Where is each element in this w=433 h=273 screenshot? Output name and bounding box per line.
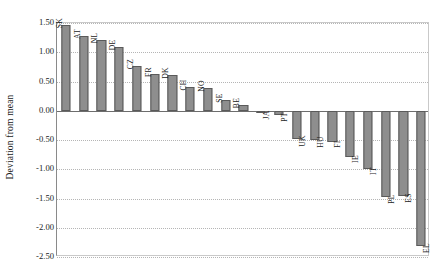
bar[interactable] <box>399 111 408 196</box>
bar-group: IE <box>341 23 359 257</box>
bar-group: SE <box>217 23 235 257</box>
bar-group: FI <box>323 23 341 257</box>
bar-category-label: NO <box>196 80 208 92</box>
bar-group: FR <box>146 23 164 257</box>
bar[interactable] <box>363 111 372 170</box>
bar-group: BE <box>235 23 253 257</box>
bar[interactable] <box>381 111 390 197</box>
bar-category-label: EL <box>421 243 433 253</box>
bar-group: UK <box>288 23 306 257</box>
bar-category-label: DK <box>160 67 172 79</box>
bar-category-label: SE <box>214 93 226 102</box>
bar-series: SKATNLDECZFRDKCHNOSEBEJAPTUKHUFIIEITPLES… <box>57 23 430 257</box>
bar[interactable] <box>79 36 88 110</box>
y-axis-tick-label: 0.00 <box>10 105 54 115</box>
plot-area: SKATNLDECZFRDKCHNOSEBEJAPTUKHUFIIEITPLES… <box>56 22 429 256</box>
y-axis-tick-label: -0.50 <box>10 134 54 144</box>
bar-category-label: FR <box>143 67 155 77</box>
bar-category-label: DE <box>107 40 119 51</box>
gridline <box>57 257 428 258</box>
bar-category-label: AT <box>72 30 84 40</box>
bar[interactable] <box>97 40 106 111</box>
bar-category-label: SK <box>54 18 66 28</box>
bar-category-label: NL <box>89 33 101 44</box>
bar-group: HU <box>306 23 324 257</box>
bar[interactable] <box>416 111 425 246</box>
bar-category-label: BE <box>231 98 243 108</box>
bar-category-label: CH <box>178 79 190 90</box>
bar-group: EL <box>412 23 430 257</box>
bar-group: NO <box>199 23 217 257</box>
bar[interactable] <box>150 74 159 111</box>
y-axis-tick-label: -2.50 <box>10 251 54 261</box>
bar[interactable] <box>115 47 124 111</box>
bar-group: PL <box>377 23 395 257</box>
y-axis-tick-label: -2.00 <box>10 222 54 232</box>
bar-group: CZ <box>128 23 146 257</box>
y-axis-tick-label: -1.50 <box>10 193 54 203</box>
bar-group: CH <box>181 23 199 257</box>
bar-category-label: CZ <box>125 59 137 69</box>
bar-group: SK <box>57 23 75 257</box>
bar-group: ES <box>394 23 412 257</box>
bar[interactable] <box>168 75 177 111</box>
y-axis-tick-label: -1.00 <box>10 163 54 173</box>
bar[interactable] <box>132 66 141 110</box>
bar-group: PT <box>270 23 288 257</box>
bar-group: AT <box>75 23 93 257</box>
bar[interactable] <box>61 25 70 111</box>
bar-group: JA <box>252 23 270 257</box>
y-axis-tick-label: 1.00 <box>10 46 54 56</box>
bar-chart: Deviation from mean 1.501.000.500.00-0.5… <box>0 0 433 273</box>
bar-group: NL <box>93 23 111 257</box>
bar[interactable] <box>328 111 337 142</box>
bar-group: DK <box>164 23 182 257</box>
bar-group: IT <box>359 23 377 257</box>
y-axis-tick-label: 0.50 <box>10 76 54 86</box>
y-axis-tick-label: 1.50 <box>10 17 54 27</box>
bar[interactable] <box>345 111 354 157</box>
